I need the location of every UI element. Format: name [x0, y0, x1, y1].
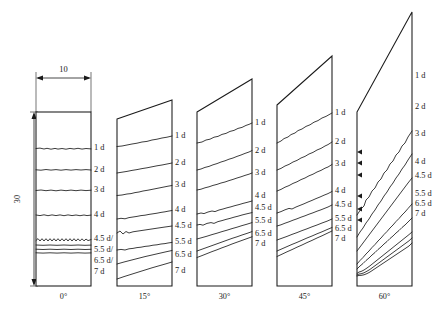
day-label-3d-0deg: 3 d: [94, 185, 105, 194]
day-label-4d-45deg: 4 d: [335, 186, 346, 195]
day-label-4d-30deg: 4 d: [255, 191, 266, 200]
day-label-65d-60deg: 6.5 d: [415, 199, 433, 208]
front-curve-3d-0deg: [36, 190, 91, 191]
specimen-outline-15deg: [117, 100, 172, 286]
day-label-2d-30deg: 2 d: [255, 146, 266, 155]
day-label-3d-45deg: 3 d: [335, 159, 346, 168]
figure-container: 10 30 1 d 2 d 3 d 4 d 4.5 d/ 5.5 d/ 6.5 …: [0, 0, 448, 319]
specimen-angle-diagram: 10 30 1 d 2 d 3 d 4 d 4.5 d/ 5.5 d/ 6.5 …: [0, 0, 448, 319]
day-label-45d-0deg: 4.5 d/: [94, 234, 114, 243]
day-label-55d-45deg: 5.5 d: [335, 214, 353, 223]
day-label-2d-15deg: 2 d: [175, 158, 186, 167]
day-label-45d-15deg: 4.5 d: [175, 221, 193, 230]
day-label-4d-15deg: 4 d: [175, 205, 186, 214]
panel-15deg: 1 d 2 d 3 d 4 d 4.5 d 5.5 d 6.5 d 7 d 15…: [117, 100, 193, 301]
day-label-3d-30deg: 3 d: [255, 168, 266, 177]
day-label-55d-0deg: 5.5 d/: [94, 245, 114, 254]
angle-label-60deg: 60°: [379, 292, 390, 301]
day-label-2d-0deg: 2 d: [94, 165, 105, 174]
angle-label-45deg: 45°: [299, 292, 310, 301]
day-label-1d-30deg: 1 d: [255, 118, 266, 127]
day-label-1d-60deg: 1 d: [415, 71, 426, 80]
angle-label-0deg: 0°: [60, 292, 67, 301]
height-dimension: 30: [13, 112, 38, 286]
panel-60deg: 1 d 2 d 3 d 4 d 4.5 d 5.5 d 6.5 d 7 d 60…: [357, 12, 433, 301]
day-label-55d-30deg: 5.5 d: [255, 216, 273, 225]
day-label-2d-60deg: 2 d: [415, 102, 426, 111]
day-label-65d-0deg: 6.5 d/: [94, 256, 114, 265]
day-label-55d-15deg: 5.5 d: [175, 237, 193, 246]
specimen-outline-45deg: [277, 56, 332, 286]
width-label: 10: [59, 65, 67, 74]
day-label-1d-15deg: 1 d: [175, 131, 186, 140]
front-curve-2d-0deg: [36, 170, 91, 171]
day-label-45d-60deg: 4.5 d: [415, 171, 433, 180]
day-label-4d-60deg: 4 d: [415, 157, 426, 166]
panel-45deg: 1 d 2 d 3 d 4 d 4.5 d 5.5 d 6.5 d 7 d 45…: [277, 56, 353, 301]
arrow-left-icon: [36, 75, 43, 80]
day-label-2d-45deg: 2 d: [335, 137, 346, 146]
day-label-65d-15deg: 6.5 d: [175, 250, 193, 259]
angle-label-30deg: 30°: [219, 292, 230, 301]
day-label-3d-15deg: 3 d: [175, 180, 186, 189]
day-label-45d-30deg: 4.5 d: [255, 203, 273, 212]
arrow-right-icon: [84, 75, 91, 80]
height-label: 30: [13, 195, 22, 203]
day-label-65d-45deg: 6.5 d: [335, 224, 353, 233]
day-label-3d-60deg: 3 d: [415, 129, 426, 138]
day-label-1d-0deg: 1 d: [94, 143, 105, 152]
day-label-65d-30deg: 6.5 d: [255, 229, 273, 238]
day-label-7d-30deg: 7 d: [255, 239, 266, 248]
day-label-7d-45deg: 7 d: [335, 234, 346, 243]
day-label-45d-45deg: 4.5 d: [335, 200, 353, 209]
panel-0deg: 10 30 1 d 2 d 3 d 4 d 4.5 d/ 5.5 d/ 6.5 …: [13, 65, 114, 301]
specimen-outline-0deg: [36, 112, 91, 286]
width-dimension: 10: [36, 65, 91, 112]
day-label-4d-0deg: 4 d: [94, 210, 105, 219]
panel-30deg: 1 d 2 d 3 d 4 d 4.5 d 5.5 d 6.5 d 7 d 30…: [197, 79, 273, 301]
day-label-7d-0deg: 7 d: [94, 267, 105, 276]
angle-label-15deg: 15°: [139, 292, 150, 301]
day-label-7d-60deg: 7 d: [415, 209, 426, 218]
day-label-7d-15deg: 7 d: [175, 266, 186, 275]
day-label-55d-60deg: 5.5 d: [415, 189, 433, 198]
day-label-1d-45deg: 1 d: [335, 108, 346, 117]
